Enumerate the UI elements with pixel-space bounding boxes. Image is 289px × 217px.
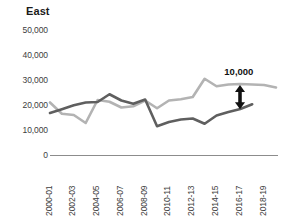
x-axis-tick-label: 2016-17 [234,186,244,217]
x-axis-tick-label: 2012-13 [186,186,196,217]
annotation-arrow-icon [233,85,247,109]
x-axis-tick-label: 2002-03 [67,186,77,217]
annotation-label: 10,000 [224,66,253,77]
y-axis-tick-label: 20,000 [2,100,48,110]
series-line-dark-series [50,94,252,126]
x-axis-tick-label: 2010-11 [162,186,172,216]
x-axis: 2000-012002-032004-052006-072008-092010-… [50,156,278,216]
x-axis-tick-label: 2008-09 [139,186,149,217]
x-axis-tick-label: 2004-05 [91,186,101,217]
x-axis-tick-label: 2014-15 [210,186,220,217]
line-chart: East 50,00040,00030,00020,00010,0000 200… [0,0,289,217]
y-axis-tick-label: 10,000 [2,125,48,135]
x-axis-tick-label: 2000-01 [44,186,54,217]
y-axis-tick-label: 0 [2,150,48,160]
y-axis-tick-label: 50,000 [2,25,48,35]
y-axis: 50,00040,00030,00020,00010,0000 [0,0,48,217]
x-axis-tick-label: 2006-07 [115,186,125,217]
y-axis-tick-label: 30,000 [2,75,48,85]
y-axis-tick-label: 40,000 [2,50,48,60]
x-axis-tick-label: 2018-19 [258,186,268,217]
